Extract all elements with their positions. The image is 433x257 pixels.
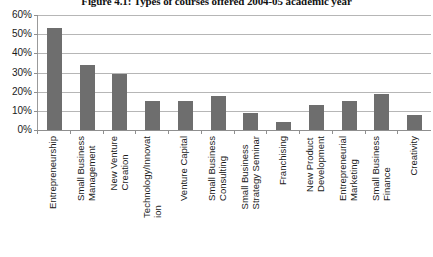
x-tickmark [299, 130, 300, 134]
x-tick-slot [299, 130, 332, 134]
x-tickmark [70, 130, 71, 134]
y-tick-label: 20% [12, 87, 32, 97]
plot-area [37, 15, 430, 130]
bar[interactable] [407, 115, 422, 130]
x-tickmark [332, 130, 333, 134]
x-label-slot: Small BusinessStrategy Seminar [234, 136, 267, 257]
x-axis-label: Franchising [277, 136, 288, 185]
x-tickmark [201, 130, 202, 134]
x-axis-label: Creativity [408, 136, 419, 176]
bar-slot [38, 15, 71, 130]
bar-slot [366, 15, 399, 130]
x-tickmark [135, 130, 136, 134]
x-tickmark [365, 130, 366, 134]
x-axis-label-line: New Product [304, 138, 315, 192]
x-tick-slot [397, 130, 430, 134]
x-label-slot: Venture Capital [168, 136, 201, 257]
x-label-slot: Small BusinessFinance [365, 136, 398, 257]
x-tickmark [37, 130, 38, 134]
x-tick-slot [37, 130, 70, 134]
chart-title: Figure 4.1: Types of courses offered 200… [0, 0, 433, 7]
x-axis-labels: EntrepreneurshipSmall BusinessManagement… [37, 136, 430, 257]
bar-slot [71, 15, 104, 130]
x-axis-label-line: Franchising [276, 136, 287, 185]
x-label-slot: Franchising [266, 136, 299, 257]
x-tickmark [397, 130, 398, 134]
x-axis-label-line: Small Business [75, 136, 86, 201]
x-axis-label-line: Small Business [369, 136, 380, 201]
x-tick-slot [365, 130, 398, 134]
x-axis-label-line: Small Business [238, 144, 249, 209]
x-axis-label: New ProductDevelopment [305, 136, 326, 192]
x-tick-slot [70, 130, 103, 134]
x-tick-slot [103, 130, 136, 134]
x-label-slot: New ProductDevelopment [299, 136, 332, 257]
bar-slot [136, 15, 169, 130]
x-axis-label-line: Entrepreneurship [47, 136, 58, 209]
bar[interactable] [47, 28, 62, 130]
bar[interactable] [309, 105, 324, 130]
bar[interactable] [80, 65, 95, 130]
x-tick-slot [332, 130, 365, 134]
x-label-slot: EntrepreneurialMarketing [332, 136, 365, 257]
x-axis-label: EntrepreneurialMarketing [338, 136, 359, 201]
x-axis-label: Small BusinessConsulting [207, 136, 228, 201]
x-tickmark [168, 130, 169, 134]
x-axis-label: Technology/Innovation [141, 136, 162, 218]
bar-slot [300, 15, 333, 130]
x-axis-label-line: Development [315, 136, 326, 192]
x-tickmark [266, 130, 267, 134]
bar-slot [235, 15, 268, 130]
bar-slot [333, 15, 366, 130]
x-axis-ticks [37, 130, 430, 134]
x-axis-label: Small BusinessFinance [370, 136, 391, 201]
bar[interactable] [243, 113, 258, 130]
x-axis-label-line: New Venture [107, 136, 118, 190]
x-tickmark [234, 130, 235, 134]
x-axis-label-line: Venture Capital [178, 136, 189, 201]
x-label-slot: Small BusinessConsulting [201, 136, 234, 257]
x-axis-label: Entrepreneurship [48, 136, 59, 209]
bar-slot [169, 15, 202, 130]
y-tick-label: 10% [12, 106, 32, 116]
x-tick-slot [266, 130, 299, 134]
figure-container: Figure 4.1: Types of courses offered 200… [0, 0, 433, 257]
x-axis-label: Small BusinessManagement [76, 136, 97, 201]
bar[interactable] [374, 94, 389, 130]
x-tick-slot [201, 130, 234, 134]
y-tick-label: 50% [12, 29, 32, 39]
y-axis: 60%50%40%30%20%10%0% [0, 10, 34, 134]
bar[interactable] [178, 101, 193, 130]
y-tick-label: 30% [12, 68, 32, 78]
bar-slot [104, 15, 137, 130]
x-axis-label-line: Consulting [217, 136, 228, 201]
x-axis-label: Small BusinessStrategy Seminar [239, 136, 260, 209]
bar[interactable] [145, 101, 160, 130]
x-axis-label-line: Management [86, 136, 97, 201]
y-tick-label: 60% [12, 10, 32, 20]
bar[interactable] [342, 101, 357, 130]
bar-slot [202, 15, 235, 130]
x-label-slot: Creativity [397, 136, 430, 257]
x-axis-label-line: ion [152, 136, 163, 218]
x-axis-label-line: Entrepreneurial [337, 136, 348, 201]
x-label-slot: Entrepreneurship [37, 136, 70, 257]
bar-slot [398, 15, 431, 130]
x-axis-label-line: Technology/Innovat [140, 136, 151, 218]
bar[interactable] [211, 96, 226, 131]
x-axis-label-line: Marketing [348, 136, 359, 201]
x-tickmark [103, 130, 104, 134]
x-tick-slot [168, 130, 201, 134]
x-label-slot: Technology/Innovation [135, 136, 168, 257]
x-label-slot: Small BusinessManagement [70, 136, 103, 257]
x-axis-label-line: Strategy Seminar [250, 136, 261, 209]
x-axis-label-line: Creativity [407, 136, 418, 176]
bar-series [38, 15, 431, 130]
bar-slot [267, 15, 300, 130]
bar[interactable] [276, 122, 291, 130]
y-tick-label: 40% [12, 48, 32, 58]
x-tick-slot [135, 130, 168, 134]
bar[interactable] [112, 74, 127, 130]
x-tick-slot [234, 130, 267, 134]
y-tick-label: 0% [18, 125, 32, 135]
